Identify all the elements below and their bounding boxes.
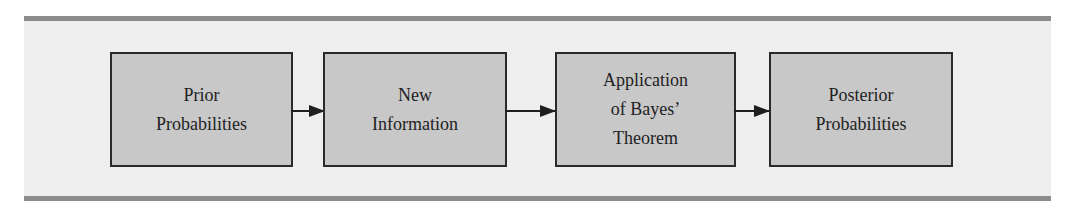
- node-label-line: Probabilities: [156, 110, 247, 139]
- node-application-of-bayes-theorem: Application of Bayes’ Theorem: [555, 52, 736, 167]
- node-prior-probabilities: Prior Probabilities: [110, 52, 293, 167]
- arrow-prior-to-new-information: [291, 110, 324, 112]
- node-label-line: Information: [372, 110, 458, 139]
- node-posterior-probabilities: Posterior Probabilities: [769, 52, 953, 167]
- node-label-line: Prior: [184, 81, 220, 110]
- arrow-bayes-to-posterior: [734, 110, 769, 112]
- node-label-line: Application: [603, 66, 688, 95]
- frame-top-rule: [24, 16, 1051, 21]
- frame-bottom-rule: [24, 196, 1051, 201]
- node-label-line: of Bayes’: [611, 95, 680, 124]
- arrow-new-information-to-bayes: [505, 110, 555, 112]
- node-label-line: New: [398, 81, 432, 110]
- node-new-information: New Information: [323, 52, 507, 167]
- node-label-line: Posterior: [829, 81, 894, 110]
- node-label-line: Probabilities: [816, 110, 907, 139]
- node-label-line: Theorem: [613, 124, 678, 153]
